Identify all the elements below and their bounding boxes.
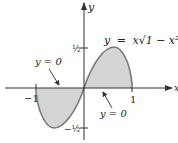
annotation-upper-y-zero: y = 0 bbox=[34, 56, 62, 67]
annotation-arrow-lower bbox=[103, 92, 112, 108]
tick-label-one: 1 bbox=[130, 94, 136, 105]
shaded-region-positive bbox=[84, 47, 132, 88]
tick-label-neg-half: −½ bbox=[64, 124, 81, 134]
equation-label: y = x√1 − x² bbox=[103, 34, 178, 47]
shaded-region-negative bbox=[36, 88, 84, 128]
y-axis-label: y bbox=[87, 1, 95, 14]
annotation-lower-y-zero: y = 0 bbox=[99, 108, 127, 119]
figure-canvas: y x ½ −½ −1 1 y = x√1 − x² y = 0 y = 0 bbox=[0, 0, 178, 143]
x-axis-label: x bbox=[174, 83, 178, 93]
tick-label-neg-one: −1 bbox=[24, 93, 39, 104]
tick-label-half: ½ bbox=[72, 44, 81, 54]
annotation-arrow-upper bbox=[49, 69, 59, 85]
